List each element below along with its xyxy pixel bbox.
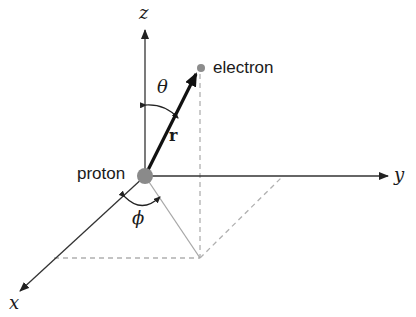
- phi-angle-arc: [125, 197, 160, 206]
- r-vector-label: r: [169, 126, 177, 145]
- z-axis-label: z: [139, 2, 148, 23]
- dashed-y-component: [200, 177, 282, 258]
- y-axis-label: y: [394, 164, 404, 185]
- r-position-vector: [145, 74, 196, 176]
- electron-dot: [197, 64, 205, 72]
- hydrogen-atom-spherical-coordinates-diagram: z y x θ ϕ r electron proton: [0, 0, 416, 317]
- x-axis: [20, 176, 145, 291]
- theta-label: θ: [157, 76, 168, 97]
- proton-label: proton: [77, 164, 125, 184]
- diagram-canvas: [0, 0, 416, 317]
- phi-label: ϕ: [132, 207, 144, 228]
- electron-label: electron: [213, 58, 273, 78]
- xy-plane-projection-line: [145, 176, 200, 258]
- x-axis-label: x: [9, 292, 19, 313]
- proton-dot: [137, 168, 153, 184]
